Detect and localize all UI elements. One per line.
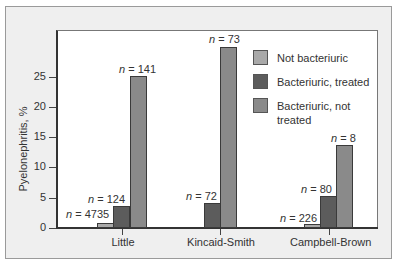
n-label: n = 8: [331, 132, 356, 144]
n-italic: n: [331, 132, 337, 144]
legend-label: Not bacteriuric: [277, 52, 397, 65]
n-value: = 226: [289, 212, 317, 224]
n-label: n = 73: [209, 33, 240, 45]
x-tick: [122, 229, 123, 235]
n-italic: n: [88, 193, 94, 205]
n-italic: n: [209, 33, 215, 45]
n-label: n = 226: [280, 212, 317, 224]
y-tick-25: [49, 77, 56, 78]
x-label-little: Little: [102, 236, 144, 248]
x-tick: [220, 229, 221, 235]
y-tick-label: 15: [26, 131, 46, 142]
legend-swatch: [253, 50, 268, 65]
legend-label: Bacteriuric, not: [277, 100, 397, 113]
y-tick-15: [49, 137, 56, 138]
legend-label-line2: treated: [277, 114, 397, 127]
n-value: = 80: [310, 183, 332, 195]
n-value: = 124: [97, 193, 125, 205]
bar-kincaid-smith-bacteriuric-not-treated: [220, 47, 237, 228]
legend-swatch: [253, 74, 268, 89]
n-italic: n: [186, 190, 192, 202]
n-italic: n: [66, 208, 72, 220]
bar-campbell-brown-not-bacteriuric: [304, 224, 321, 228]
y-tick-20: [49, 107, 56, 108]
y-tick-label: 0: [26, 222, 46, 233]
n-label: n = 124: [88, 193, 125, 205]
bar-campbell-brown-bacteriuric-treated: [320, 196, 337, 228]
n-value: = 73: [218, 33, 240, 45]
x-tick: [329, 229, 330, 235]
x-label-campbell-brown: Campbell-Brown: [290, 236, 370, 248]
y-tick-label: 5: [26, 192, 46, 203]
legend-swatch: [253, 98, 268, 113]
y-tick-5: [49, 198, 56, 199]
n-value: = 4735: [75, 208, 109, 220]
n-label: n = 141: [119, 63, 156, 75]
n-italic: n: [280, 212, 286, 224]
bar-campbell-brown-bacteriuric-not-treated: [336, 145, 353, 228]
bar-kincaid-smith-bacteriuric-treated: [204, 203, 221, 228]
y-tick-label: 20: [26, 101, 46, 112]
y-tick-label: 10: [26, 161, 46, 172]
legend-label: Bacteriuric, treated: [277, 76, 397, 89]
n-value: = 72: [195, 190, 217, 202]
n-value: = 8: [340, 132, 356, 144]
y-tick-label: 25: [26, 71, 46, 82]
y-tick-10: [49, 167, 56, 168]
bar-little-not-bacteriuric: [97, 223, 114, 228]
n-label: n = 72: [186, 190, 217, 202]
n-value: = 141: [128, 63, 156, 75]
n-italic: n: [301, 183, 307, 195]
n-label: n = 4735: [66, 208, 109, 220]
y-tick-0: [49, 228, 56, 229]
n-label: n = 80: [301, 183, 332, 195]
bar-little-bacteriuric-not-treated: [130, 76, 147, 228]
bar-little-bacteriuric-treated: [113, 206, 130, 228]
n-italic: n: [119, 63, 125, 75]
x-label-kincaid-smith: Kincaid-Smith: [184, 236, 258, 248]
